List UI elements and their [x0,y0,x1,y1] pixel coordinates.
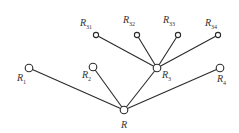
node-r1 [25,64,33,72]
node-r3 [153,64,161,72]
node-r33 [175,32,180,37]
edge-r3-r31 [96,35,157,68]
node-r4 [216,64,224,72]
label-r34: R34 [204,17,217,30]
label-r31: R31 [79,17,92,30]
node-r32 [134,32,139,37]
node-r [120,106,128,114]
node-r2 [89,63,97,71]
edge-r3-r34 [157,35,218,68]
edge-r-r3 [124,68,157,110]
label-r32: R32 [122,14,135,27]
edges [29,35,220,110]
label-r33: R33 [162,14,175,27]
label-r3: R3 [161,69,171,82]
edge-r3-r33 [157,35,178,68]
node-r31 [93,32,98,37]
label-r: R [120,119,127,130]
nodes [25,32,224,113]
label-r2: R2 [81,69,91,82]
label-r4: R4 [216,73,226,86]
edge-r-r4 [124,68,220,110]
label-r1: R1 [16,72,26,85]
tree-diagram: RR1R2R3R4R31R32R33R34 [0,0,239,133]
edge-r-r1 [29,68,124,110]
node-r34 [215,32,220,37]
